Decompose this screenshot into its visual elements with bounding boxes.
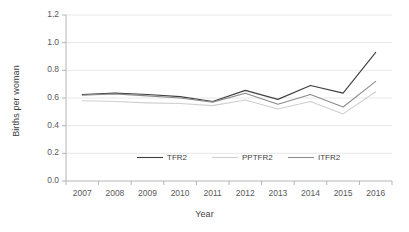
x-tick-label: 2013 — [261, 188, 295, 198]
tick-marks — [62, 15, 392, 185]
y-tick-label: 0.6 — [29, 92, 59, 102]
x-tick-label: 2016 — [359, 188, 393, 198]
y-tick-label: 1.0 — [29, 37, 59, 47]
y-tick-label: 0.4 — [29, 120, 59, 130]
y-tick-label: 1.2 — [29, 9, 59, 19]
y-tick-label: 0.8 — [29, 64, 59, 74]
x-tick-label: 2010 — [163, 188, 197, 198]
y-tick-label: 0.0 — [29, 175, 59, 185]
x-tick-label: 2008 — [98, 188, 132, 198]
x-tick-label: 2014 — [294, 188, 328, 198]
legend-label-itfr2: ITFR2 — [318, 153, 340, 162]
line-chart: Births per woman Year 0.00.20.40.60.81.0… — [0, 0, 409, 232]
y-tick-label: 0.2 — [29, 147, 59, 157]
x-tick-label: 2007 — [65, 188, 99, 198]
legend-label-pptfr2: PPTFR2 — [242, 153, 273, 162]
x-tick-label: 2009 — [131, 188, 165, 198]
legend-label-tfr2: TFR2 — [167, 153, 187, 162]
x-tick-label: 2015 — [326, 188, 360, 198]
x-tick-label: 2011 — [196, 188, 230, 198]
series-lines — [82, 52, 375, 114]
x-tick-label: 2012 — [228, 188, 262, 198]
